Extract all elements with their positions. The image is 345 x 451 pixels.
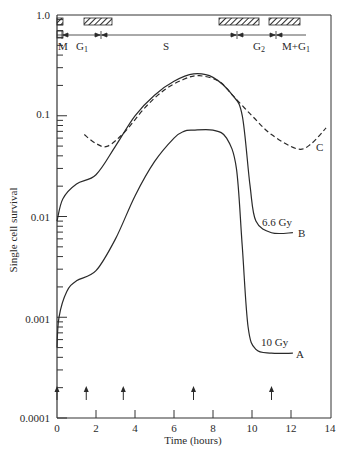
y-axis-labels: 1.0 0.1 0.01 0.001 0.0001 bbox=[20, 9, 51, 424]
x-axis-labels: 0 2 4 6 8 10 12 14 bbox=[54, 422, 336, 434]
curve-b-name-label: B bbox=[298, 227, 305, 239]
x-tick-label: 10 bbox=[247, 422, 259, 434]
phase-labels: M G1 S G2 M+G1 bbox=[58, 40, 310, 54]
x-tick-label: 8 bbox=[210, 422, 216, 434]
y-tick-label: 0.0001 bbox=[20, 412, 50, 424]
y-axis-ticks bbox=[57, 20, 67, 418]
x-tick-label: 0 bbox=[54, 422, 60, 434]
curve-a-name-label: A bbox=[296, 348, 304, 360]
x-axis-title: Time (hours) bbox=[164, 434, 222, 447]
irradiation-arrows bbox=[55, 386, 275, 400]
phase-label-s: S bbox=[163, 40, 169, 52]
x-tick-label: 2 bbox=[93, 422, 99, 434]
y-tick-label: 1.0 bbox=[36, 9, 50, 21]
curve-a-dose-label: 10 Gy bbox=[261, 336, 289, 348]
curve-c-name-label: C bbox=[316, 141, 323, 153]
hatched-bars bbox=[57, 18, 300, 25]
survival-chart: 1.0 0.1 0.01 0.001 0.0001 0 2 4 6 8 10 1… bbox=[0, 0, 345, 451]
phase-label-m-g1: M+G1 bbox=[282, 40, 310, 54]
curve-b-6-6gy bbox=[57, 74, 293, 234]
phase-label-g2: G2 bbox=[253, 40, 265, 54]
x-tick-label: 12 bbox=[286, 422, 297, 434]
y-tick-label: 0.01 bbox=[31, 211, 50, 223]
x-tick-label: 6 bbox=[171, 422, 177, 434]
phase-label-m: M bbox=[58, 40, 68, 52]
y-axis-title: Single cell survival bbox=[7, 188, 19, 273]
y-tick-label: 0.1 bbox=[36, 108, 50, 120]
cell-cycle-phase-arrows bbox=[57, 31, 306, 39]
x-tick-label: 4 bbox=[132, 422, 138, 434]
x-tick-label: 14 bbox=[325, 422, 337, 434]
x-axis-ticks bbox=[96, 410, 291, 418]
phase-label-g1: G1 bbox=[76, 40, 88, 54]
curve-b-dose-label: 6.6 Gy bbox=[262, 216, 292, 228]
curve-a-10gy bbox=[57, 129, 293, 353]
y-tick-label: 0.001 bbox=[25, 313, 50, 325]
